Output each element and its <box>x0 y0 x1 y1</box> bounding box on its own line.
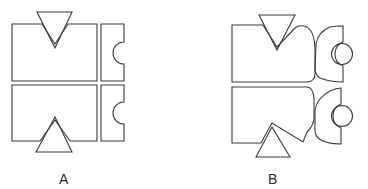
figure-b: B <box>232 15 353 187</box>
figure-b-bottom-circle <box>332 106 353 127</box>
figure-a-label: A <box>59 171 69 187</box>
figure-a-top-block <box>12 24 97 81</box>
figure-b-top-right-piece <box>315 26 343 82</box>
figure-b-bottom-right-piece <box>315 88 341 144</box>
figure-b-bottom-block <box>232 87 314 143</box>
figure-b-top-block <box>232 25 315 82</box>
figure-a-top-right-piece <box>101 24 124 81</box>
figure-a: A <box>12 12 124 187</box>
diagram-canvas: A B <box>0 0 368 189</box>
figure-a-bottom-right-piece <box>101 85 124 141</box>
figure-b-top-triangle <box>259 15 295 50</box>
figure-a-bottom-block <box>12 85 97 141</box>
figure-b-label: B <box>268 171 277 187</box>
